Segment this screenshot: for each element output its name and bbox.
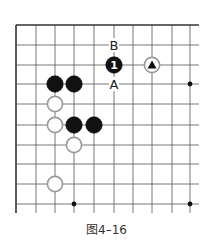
black-stone-icon (47, 76, 63, 92)
white-stone-icon (144, 57, 159, 72)
black-stone-icon: 1 (106, 57, 122, 73)
white-stone-icon (47, 176, 62, 191)
star-points (72, 82, 193, 207)
star-point-icon (72, 202, 77, 207)
board-grid (16, 25, 199, 213)
go-board-diagram: BA 1 (0, 0, 213, 244)
black-stone-icon (86, 117, 102, 133)
white-stone-icon (47, 117, 62, 132)
figure-caption: 图4–16 (0, 220, 213, 237)
point-label-a: A (110, 77, 119, 92)
point-label-b: B (110, 38, 119, 53)
star-point-icon (188, 202, 193, 207)
black-stone-icon (66, 117, 82, 133)
move-number-label: 1 (110, 59, 118, 72)
white-stone-icon (47, 96, 62, 111)
stones: 1 (47, 57, 160, 192)
star-point-icon (188, 82, 193, 87)
white-stone-icon (66, 137, 81, 152)
black-stone-icon (66, 76, 82, 92)
